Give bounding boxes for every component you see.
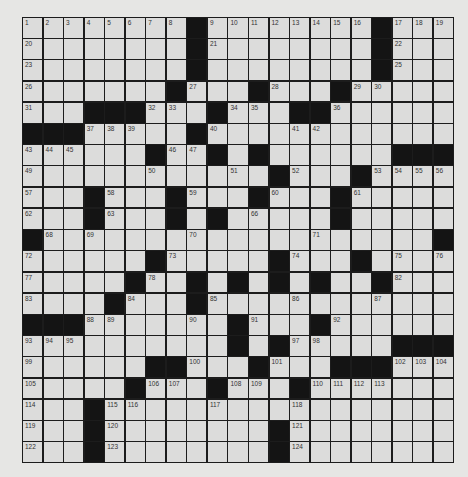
crossword-cell[interactable]: 29 — [352, 82, 371, 102]
crossword-cell[interactable] — [331, 60, 350, 80]
crossword-cell[interactable]: 23 — [23, 60, 42, 80]
crossword-cell[interactable] — [413, 442, 432, 462]
crossword-cell[interactable] — [85, 145, 104, 165]
crossword-cell[interactable] — [208, 315, 227, 335]
crossword-cell[interactable]: 36 — [331, 103, 350, 123]
crossword-cell[interactable] — [393, 230, 412, 250]
crossword-cell[interactable] — [311, 145, 330, 165]
crossword-cell[interactable] — [228, 421, 247, 441]
crossword-cell[interactable] — [44, 442, 63, 462]
crossword-cell[interactable]: 119 — [23, 421, 42, 441]
crossword-cell[interactable]: 100 — [187, 357, 206, 377]
crossword-cell[interactable] — [331, 294, 350, 314]
crossword-cell[interactable] — [208, 357, 227, 377]
crossword-cell[interactable]: 84 — [126, 294, 145, 314]
crossword-cell[interactable] — [311, 82, 330, 102]
crossword-cell[interactable] — [270, 145, 289, 165]
crossword-cell[interactable] — [311, 188, 330, 208]
crossword-cell[interactable] — [331, 230, 350, 250]
crossword-cell[interactable] — [187, 336, 206, 356]
crossword-cell[interactable] — [311, 294, 330, 314]
crossword-cell[interactable]: 92 — [331, 315, 350, 335]
crossword-cell[interactable]: 107 — [167, 379, 186, 399]
crossword-cell[interactable] — [372, 400, 391, 420]
crossword-cell[interactable] — [434, 421, 453, 441]
crossword-cell[interactable]: 52 — [290, 166, 309, 186]
crossword-cell[interactable] — [270, 294, 289, 314]
crossword-cell[interactable] — [85, 357, 104, 377]
crossword-cell[interactable] — [393, 442, 412, 462]
crossword-cell[interactable] — [393, 188, 412, 208]
crossword-cell[interactable] — [352, 39, 371, 59]
crossword-cell[interactable] — [434, 103, 453, 123]
crossword-cell[interactable] — [64, 442, 83, 462]
crossword-cell[interactable]: 40 — [208, 124, 227, 144]
crossword-cell[interactable]: 89 — [105, 315, 124, 335]
crossword-cell[interactable]: 60 — [270, 188, 289, 208]
crossword-cell[interactable] — [372, 188, 391, 208]
crossword-cell[interactable] — [64, 251, 83, 271]
crossword-cell[interactable] — [372, 251, 391, 271]
crossword-cell[interactable] — [434, 442, 453, 462]
crossword-cell[interactable]: 124 — [290, 442, 309, 462]
crossword-cell[interactable]: 26 — [23, 82, 42, 102]
crossword-cell[interactable]: 109 — [249, 379, 268, 399]
crossword-cell[interactable]: 20 — [23, 39, 42, 59]
crossword-cell[interactable]: 45 — [64, 145, 83, 165]
crossword-cell[interactable] — [331, 442, 350, 462]
crossword-cell[interactable] — [311, 251, 330, 271]
crossword-cell[interactable] — [434, 60, 453, 80]
crossword-cell[interactable]: 78 — [146, 273, 165, 293]
crossword-cell[interactable] — [311, 400, 330, 420]
crossword-cell[interactable] — [290, 82, 309, 102]
crossword-cell[interactable] — [249, 39, 268, 59]
crossword-cell[interactable] — [228, 209, 247, 229]
crossword-cell[interactable] — [352, 145, 371, 165]
crossword-cell[interactable] — [126, 315, 145, 335]
crossword-cell[interactable] — [352, 336, 371, 356]
crossword-cell[interactable] — [249, 166, 268, 186]
crossword-cell[interactable] — [146, 60, 165, 80]
crossword-cell[interactable] — [208, 442, 227, 462]
crossword-cell[interactable] — [228, 230, 247, 250]
crossword-cell[interactable]: 39 — [126, 124, 145, 144]
crossword-cell[interactable] — [64, 357, 83, 377]
crossword-cell[interactable]: 35 — [249, 103, 268, 123]
crossword-cell[interactable] — [331, 166, 350, 186]
crossword-cell[interactable] — [352, 421, 371, 441]
crossword-cell[interactable] — [249, 400, 268, 420]
crossword-cell[interactable]: 56 — [434, 166, 453, 186]
crossword-cell[interactable]: 101 — [270, 357, 289, 377]
crossword-cell[interactable] — [208, 230, 227, 250]
crossword-cell[interactable] — [434, 209, 453, 229]
crossword-cell[interactable] — [64, 60, 83, 80]
crossword-cell[interactable] — [146, 124, 165, 144]
crossword-cell[interactable] — [393, 82, 412, 102]
crossword-cell[interactable] — [85, 82, 104, 102]
crossword-cell[interactable] — [413, 230, 432, 250]
crossword-cell[interactable] — [44, 103, 63, 123]
crossword-cell[interactable] — [208, 273, 227, 293]
crossword-cell[interactable] — [105, 336, 124, 356]
crossword-cell[interactable]: 93 — [23, 336, 42, 356]
crossword-cell[interactable] — [290, 209, 309, 229]
crossword-cell[interactable] — [167, 39, 186, 59]
crossword-cell[interactable] — [413, 294, 432, 314]
crossword-cell[interactable] — [44, 379, 63, 399]
crossword-cell[interactable] — [413, 251, 432, 271]
crossword-cell[interactable]: 113 — [372, 379, 391, 399]
crossword-cell[interactable] — [372, 124, 391, 144]
crossword-cell[interactable]: 51 — [228, 166, 247, 186]
crossword-cell[interactable] — [434, 315, 453, 335]
crossword-cell[interactable] — [393, 124, 412, 144]
crossword-cell[interactable] — [85, 379, 104, 399]
crossword-cell[interactable] — [187, 166, 206, 186]
crossword-cell[interactable] — [372, 421, 391, 441]
crossword-cell[interactable] — [413, 82, 432, 102]
crossword-cell[interactable] — [413, 421, 432, 441]
crossword-cell[interactable]: 85 — [208, 294, 227, 314]
crossword-cell[interactable]: 27 — [187, 82, 206, 102]
crossword-cell[interactable] — [352, 442, 371, 462]
crossword-cell[interactable]: 97 — [290, 336, 309, 356]
crossword-cell[interactable] — [228, 82, 247, 102]
